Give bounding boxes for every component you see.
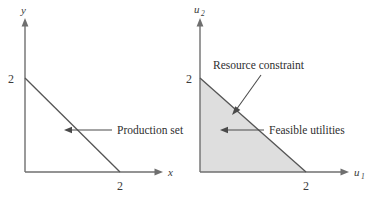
x-axis-label: u bbox=[354, 166, 360, 178]
x-axis-label-subscript: 1 bbox=[361, 172, 365, 181]
y-axis-label: u bbox=[194, 3, 200, 15]
x-axis-label-group: u 1 bbox=[354, 166, 365, 181]
feasible-utilities-panel: u 2 u 1 2 2 Resource constraint Feasible… bbox=[186, 0, 373, 206]
y-axis-left bbox=[22, 18, 29, 172]
x-axis-tick-label-2: 2 bbox=[117, 179, 123, 193]
x-axis-arrowhead bbox=[341, 169, 350, 176]
y-axis-label-group: u 2 bbox=[194, 3, 205, 18]
production-set-annotation: Production set bbox=[117, 124, 184, 136]
y-axis-tick-label-2: 2 bbox=[186, 72, 192, 86]
y-axis-arrowhead bbox=[22, 18, 29, 27]
y-axis-label: y bbox=[20, 4, 26, 16]
x-axis-label: x bbox=[167, 166, 173, 178]
resource-constraint-annotation: Resource constraint bbox=[213, 59, 305, 71]
x-axis-arrowhead bbox=[155, 169, 164, 176]
figure-container: y x 2 2 Production set u 2 bbox=[0, 0, 373, 206]
production-frontier-line bbox=[25, 78, 120, 172]
y-axis-arrowhead bbox=[197, 18, 204, 27]
resource-constraint-leader bbox=[232, 75, 261, 115]
x-axis-tick-label-2: 2 bbox=[303, 179, 309, 193]
x-axis-left bbox=[25, 169, 163, 176]
production-set-leader bbox=[64, 127, 112, 133]
production-set-panel: y x 2 2 Production set bbox=[0, 0, 187, 206]
feasible-utilities-annotation: Feasible utilities bbox=[269, 124, 345, 136]
production-set-arrowhead bbox=[64, 127, 72, 133]
y-axis-label-subscript: 2 bbox=[201, 9, 205, 18]
y-axis-tick-label-2: 2 bbox=[8, 72, 14, 86]
